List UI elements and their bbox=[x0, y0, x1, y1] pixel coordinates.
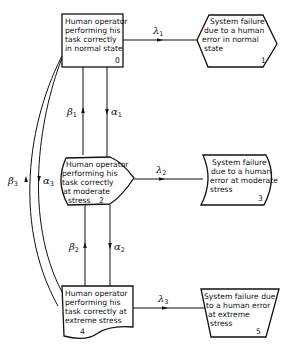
svg-text:stress: stress bbox=[68, 196, 91, 205]
svg-text:λ1: λ1 bbox=[152, 25, 163, 38]
svg-text:0: 0 bbox=[115, 56, 120, 65]
svg-text:state: state bbox=[204, 44, 224, 53]
state-transition-diagram: λ1 λ2 λ3 β1 α1 β2 α2 β3 α3 bbox=[0, 0, 289, 351]
arrow-down-icon bbox=[108, 243, 112, 249]
svg-text:4: 4 bbox=[80, 327, 85, 336]
edge-lambda1: λ1 bbox=[123, 25, 198, 42]
arrow-down-icon bbox=[105, 109, 109, 115]
svg-text:performing his: performing his bbox=[62, 169, 117, 178]
edge-alpha3: α3 bbox=[37, 58, 62, 292]
svg-text:Human operator: Human operator bbox=[65, 289, 128, 298]
svg-text:at extreme: at extreme bbox=[208, 310, 250, 319]
svg-text:task correctly: task correctly bbox=[65, 35, 117, 44]
edge-lambda2: λ2 bbox=[134, 164, 203, 181]
svg-text:1: 1 bbox=[261, 56, 266, 65]
svg-text:stress: stress bbox=[210, 319, 233, 328]
svg-text:λ3: λ3 bbox=[157, 293, 168, 306]
svg-text:λ2: λ2 bbox=[155, 164, 166, 177]
arrow-down-icon bbox=[37, 176, 41, 182]
edge-alpha1: α1 bbox=[105, 67, 122, 157]
svg-text:α2: α2 bbox=[114, 241, 125, 254]
node-2-moderate-stress: Human operator performing his task corre… bbox=[61, 157, 134, 205]
arrow-right-icon bbox=[157, 38, 163, 42]
svg-text:due to a human: due to a human bbox=[204, 26, 264, 35]
svg-text:extreme stress: extreme stress bbox=[65, 316, 122, 325]
arrow-up-icon bbox=[81, 107, 85, 113]
edge-beta1: β1 bbox=[66, 67, 85, 155]
svg-text:β1: β1 bbox=[66, 106, 77, 119]
arrow-right-icon bbox=[159, 177, 165, 181]
svg-text:3: 3 bbox=[258, 194, 263, 203]
svg-text:task correctly at: task correctly at bbox=[65, 307, 127, 316]
svg-text:in normal state: in normal state bbox=[65, 44, 123, 53]
svg-text:α1: α1 bbox=[111, 106, 122, 119]
svg-text:due to a human: due to a human bbox=[211, 167, 271, 176]
svg-text:error in normal: error in normal bbox=[202, 35, 259, 44]
svg-text:Human operator: Human operator bbox=[65, 17, 128, 26]
svg-text:β3: β3 bbox=[7, 175, 18, 188]
svg-text:at moderate: at moderate bbox=[63, 187, 110, 196]
edge-alpha2: α2 bbox=[108, 205, 125, 286]
svg-text:System failure due: System failure due bbox=[204, 292, 276, 301]
arrow-up-icon bbox=[24, 176, 28, 182]
svg-text:System failure: System failure bbox=[212, 158, 267, 167]
arrow-up-icon bbox=[83, 242, 87, 248]
node-1-failure-normal-state: System failure due to a human error in n… bbox=[197, 15, 277, 67]
node-4-extreme-stress: Human operator performing his task corre… bbox=[62, 286, 133, 338]
edge-lambda3: λ3 bbox=[133, 293, 206, 310]
svg-text:task correctly: task correctly bbox=[62, 178, 114, 187]
svg-text:α3: α3 bbox=[43, 175, 54, 188]
node-3-failure-moderate-stress: System failure due to a human error at m… bbox=[201, 155, 278, 205]
svg-text:2: 2 bbox=[99, 196, 104, 205]
svg-text:System failure: System failure bbox=[210, 17, 265, 26]
svg-text:5: 5 bbox=[256, 327, 261, 336]
svg-text:performing his: performing his bbox=[65, 298, 120, 307]
svg-text:to a human error: to a human error bbox=[206, 301, 271, 310]
node-5-failure-extreme-stress: System failure due to a human error at e… bbox=[201, 289, 279, 337]
svg-text:error at moderate: error at moderate bbox=[210, 176, 278, 185]
svg-text:stress: stress bbox=[210, 185, 233, 194]
svg-text:performing his: performing his bbox=[65, 26, 120, 35]
svg-text:β2: β2 bbox=[68, 241, 79, 254]
svg-text:Human operator: Human operator bbox=[66, 160, 129, 169]
arrow-right-icon bbox=[162, 306, 168, 310]
node-0-normal-state: Human operator performing his task corre… bbox=[62, 14, 128, 67]
edge-beta3: β3 bbox=[7, 45, 68, 306]
edge-beta2: β2 bbox=[68, 205, 87, 286]
